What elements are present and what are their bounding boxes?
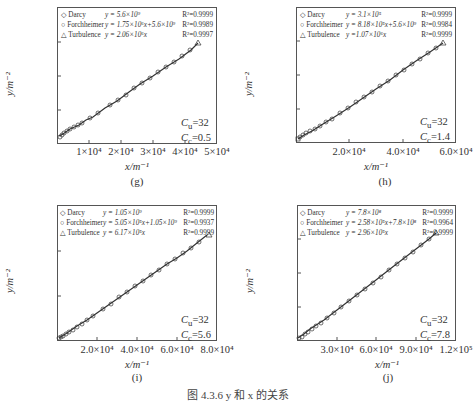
annotation-cu-cc: Cu=32 Cc=7.8	[420, 314, 450, 344]
legend-r2: R²=0.9999	[422, 208, 453, 218]
xtick-label: 1.2×10⁵	[439, 344, 472, 355]
panel-label: (j)	[383, 371, 393, 383]
legend-name: Forchheimer	[306, 219, 343, 227]
legend-name: Darcy	[307, 209, 325, 217]
legend-name: Turbulence	[307, 229, 339, 237]
legend-item-turbulence: △ Turbulence y = 2.96×10⁵x R²=0.9999	[300, 228, 453, 238]
legend-equation: y = 7.8×10⁸	[346, 208, 381, 218]
legend-equation: y = 2.58×10⁵x+7.8×10⁸	[346, 218, 416, 228]
cu-value: 32	[437, 314, 448, 325]
cc-value: 7.8	[437, 329, 450, 340]
xtick-label: 9.0×10⁴	[399, 344, 432, 355]
xtick-label: 6.0×10⁴	[359, 344, 392, 355]
y-axis-label: y/m⁻²	[243, 269, 255, 293]
legend-item-darcy: ◇ Darcy y = 7.8×10⁸ R²=0.9999	[300, 208, 453, 218]
figure-caption: 图 4.3.6 y 和 x 的关系	[0, 386, 476, 402]
legend-item-forchheimer: ○ Forchheimer y = 2.58×10⁵x+7.8×10⁸ R²=0…	[300, 218, 453, 228]
data-series-j	[297, 230, 439, 340]
x-axis-label: x/m⁻¹	[375, 358, 399, 370]
legend-equation: y = 2.96×10⁵x	[346, 228, 388, 238]
xtick-label: 3.0×10⁴	[320, 344, 353, 355]
legend-j: ◇ Darcy y = 7.8×10⁸ R²=0.9999 ○ Forchhei…	[300, 208, 453, 238]
legend-r2: R²=0.9964	[422, 218, 453, 228]
legend-r2: R²=0.9999	[422, 228, 453, 238]
